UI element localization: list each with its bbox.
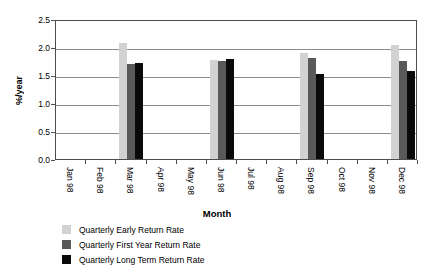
x-axis-tick-label: Jan 98 <box>64 167 76 211</box>
y-axis-tick-mark <box>51 76 55 77</box>
bar-chart-figure: %/year 0.00.51.01.52.02.5 Month Quarterl… <box>0 0 434 277</box>
x-axis-tick-mark <box>176 160 177 164</box>
y-axis-tick-mark <box>51 48 55 49</box>
y-axis-tick-label: 0.0 <box>22 156 50 164</box>
bar <box>391 45 399 159</box>
x-axis-tick-mark <box>327 160 328 164</box>
bar-group <box>150 21 174 159</box>
y-axis-tick-labels: 0.00.51.01.52.02.5 <box>22 20 50 160</box>
x-axis-tick-mark <box>115 160 116 164</box>
bar-group <box>361 21 385 159</box>
x-axis-tick-label: Nov 98 <box>366 167 378 211</box>
x-axis-tick-label: Dec 98 <box>396 167 408 211</box>
x-axis-tick-label: Sep 98 <box>305 167 317 211</box>
bar <box>407 71 415 159</box>
legend-label: Quarterly Long Term Return Rate <box>79 255 205 265</box>
bar-group <box>270 21 294 159</box>
bar-group <box>331 21 355 159</box>
y-axis-tick-mark <box>51 104 55 105</box>
x-axis-tick-mark <box>266 160 267 164</box>
x-axis-tick-label: Jun 98 <box>215 167 227 211</box>
x-axis-tick-label: Aug 98 <box>275 167 287 211</box>
x-axis-tick-mark <box>357 160 358 164</box>
y-axis-tick-label: 2.5 <box>22 16 50 24</box>
bar-group <box>300 21 324 159</box>
x-axis-tick-mark <box>206 160 207 164</box>
bar <box>399 61 407 159</box>
bar-group <box>240 21 264 159</box>
y-axis-tick-label: 2.0 <box>22 44 50 52</box>
y-axis-tick-label: 0.5 <box>22 128 50 136</box>
y-axis-tick-mark <box>51 20 55 21</box>
bar-group <box>89 21 113 159</box>
bar-group <box>59 21 83 159</box>
bar-group <box>210 21 234 159</box>
chart-legend: Quarterly Early Return RateQuarterly Fir… <box>62 222 362 267</box>
bar <box>119 43 127 159</box>
bar <box>300 53 308 159</box>
x-axis-tick-mark <box>146 160 147 164</box>
x-axis-tick-mark <box>296 160 297 164</box>
bar <box>127 64 135 159</box>
legend-item: Quarterly Early Return Rate <box>62 222 362 237</box>
legend-label: Quarterly First Year Return Rate <box>79 240 200 250</box>
legend-swatch-icon <box>62 255 71 264</box>
y-axis-tick-label: 1.5 <box>22 72 50 80</box>
legend-item: Quarterly Long Term Return Rate <box>62 252 362 267</box>
bar-group <box>391 21 415 159</box>
x-axis-tick-mark <box>85 160 86 164</box>
y-axis-tick-mark <box>51 132 55 133</box>
bar-group <box>180 21 204 159</box>
x-axis-tick-mark <box>236 160 237 164</box>
y-axis-tick-label: 1.0 <box>22 100 50 108</box>
x-axis-tick-label: Apr 98 <box>155 167 167 211</box>
bar <box>226 59 234 159</box>
legend-swatch-icon <box>62 240 71 249</box>
bar <box>135 63 143 159</box>
x-axis-tick-mark <box>387 160 388 164</box>
bar <box>316 74 324 159</box>
bar-group <box>119 21 143 159</box>
legend-swatch-icon <box>62 225 71 234</box>
legend-item: Quarterly First Year Return Rate <box>62 237 362 252</box>
bar <box>308 58 316 159</box>
x-axis-tick-label: Feb 98 <box>94 167 106 211</box>
bar <box>210 60 218 159</box>
bar <box>218 61 226 159</box>
x-axis-tick-label: Jul 98 <box>245 167 257 211</box>
x-axis-tick-label: May 98 <box>185 167 197 211</box>
plot-area <box>55 20 417 160</box>
x-axis-tick-label: Mar 98 <box>124 167 136 211</box>
x-axis-tick-label: Oct 98 <box>336 167 348 211</box>
x-axis-tick-mark <box>417 160 418 164</box>
y-axis-tick-mark <box>51 160 55 161</box>
legend-label: Quarterly Early Return Rate <box>79 225 184 235</box>
